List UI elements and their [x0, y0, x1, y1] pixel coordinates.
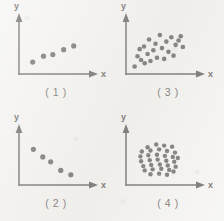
data-point — [155, 56, 160, 61]
data-point — [147, 37, 152, 42]
data-point — [157, 171, 161, 175]
data-point — [142, 61, 147, 66]
data-point — [158, 33, 163, 38]
data-point — [58, 168, 63, 173]
data-point — [141, 164, 145, 168]
panel-caption-1: ( 1 ) — [0, 86, 112, 98]
data-point — [154, 142, 158, 146]
data-point — [150, 167, 154, 171]
data-point — [148, 158, 152, 162]
data-point — [172, 160, 176, 164]
x-axis-label-1: x — [101, 69, 106, 79]
data-point — [135, 54, 140, 59]
data-point — [31, 147, 36, 152]
panel-caption-2: ( 2 ) — [0, 197, 112, 209]
data-point — [157, 147, 161, 151]
plot-area-4: y x — [112, 110, 224, 198]
data-points-1 — [30, 43, 76, 64]
x-axis-label-3: x — [208, 69, 213, 79]
data-point — [148, 148, 152, 152]
data-point — [40, 154, 45, 159]
data-point — [167, 168, 171, 172]
data-point — [171, 53, 176, 58]
data-point — [164, 159, 168, 163]
y-axis-arrowhead-4 — [123, 124, 130, 133]
x-axis-arrowhead-1 — [89, 71, 98, 78]
data-point — [143, 168, 147, 172]
data-point — [138, 154, 142, 158]
data-point — [142, 44, 147, 49]
axes-2: y x — [14, 112, 106, 190]
data-point — [149, 163, 153, 167]
data-point — [171, 169, 175, 173]
data-point — [153, 41, 158, 46]
data-point — [166, 50, 171, 55]
data-point — [140, 149, 144, 153]
data-point — [162, 143, 166, 147]
data-points-2 — [31, 147, 74, 178]
data-point — [165, 149, 169, 153]
data-point — [71, 43, 76, 48]
panel-caption-3: ( 3 ) — [112, 86, 224, 98]
data-point — [48, 159, 53, 164]
data-point — [173, 164, 177, 168]
scatterplot-panel-3: y x ( 3 ) — [112, 0, 224, 110]
axes-1: y x — [14, 1, 106, 79]
data-point — [151, 48, 156, 53]
x-axis-arrowhead-4 — [196, 182, 205, 189]
data-point — [148, 59, 153, 64]
data-point — [30, 60, 35, 65]
x-axis-label-2: x — [101, 180, 106, 190]
data-point — [171, 155, 175, 159]
y-axis-label-2: y — [14, 112, 19, 122]
x-axis-label-4: x — [208, 180, 213, 190]
x-axis-arrowhead-2 — [89, 182, 98, 189]
data-point — [164, 39, 169, 44]
data-point — [155, 157, 159, 161]
data-point — [139, 159, 143, 163]
plot-area-2: y x — [0, 110, 112, 198]
data-point — [50, 52, 55, 57]
data-point — [178, 34, 183, 39]
y-axis-arrowhead-1 — [16, 13, 23, 22]
panel-caption-4: ( 4 ) — [112, 197, 224, 209]
data-point — [173, 150, 177, 154]
data-point — [173, 43, 178, 48]
data-point — [145, 52, 150, 57]
x-axis-arrowhead-3 — [196, 71, 205, 78]
data-point — [68, 172, 73, 177]
data-point — [132, 64, 137, 69]
data-point — [169, 35, 174, 40]
y-axis-label-4: y — [121, 112, 126, 122]
data-point — [137, 47, 142, 52]
data-point — [165, 173, 169, 177]
y-axis-arrowhead-2 — [16, 124, 23, 133]
data-point — [162, 57, 167, 62]
data-point — [41, 54, 46, 59]
scatterplot-panel-2: y x ( 2 ) — [0, 110, 112, 221]
data-point — [159, 167, 163, 171]
data-point — [176, 156, 180, 160]
plot-area-1: y x — [0, 0, 112, 88]
scatterplot-panel-1: y x ( 1 ) — [0, 0, 112, 110]
y-axis-label-3: y — [121, 1, 126, 11]
data-point — [139, 58, 144, 63]
data-point — [176, 38, 181, 43]
data-point — [146, 153, 150, 157]
data-point — [170, 144, 174, 148]
plot-area-3: y x — [112, 0, 224, 88]
data-points-3 — [132, 33, 185, 69]
data-point — [163, 154, 167, 158]
data-point — [158, 162, 162, 166]
y-axis-arrowhead-3 — [123, 13, 130, 22]
data-point — [160, 46, 165, 51]
data-point — [148, 172, 152, 176]
scatterplot-panel-4: y x ( 4 ) — [112, 110, 224, 221]
data-points-4 — [138, 142, 180, 177]
data-point — [181, 45, 186, 50]
data-point — [166, 163, 170, 167]
y-axis-label-1: y — [14, 1, 19, 11]
data-point — [61, 47, 66, 52]
data-point — [155, 153, 159, 157]
scatterplot-figure-grid: y x ( 1 ) y x ( 3 ) — [0, 0, 224, 221]
